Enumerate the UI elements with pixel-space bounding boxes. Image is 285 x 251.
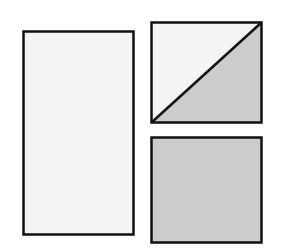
split-square (152, 23, 262, 123)
tall-rectangle (24, 32, 134, 235)
diagram-canvas (0, 0, 285, 251)
shaded-square (152, 138, 262, 243)
